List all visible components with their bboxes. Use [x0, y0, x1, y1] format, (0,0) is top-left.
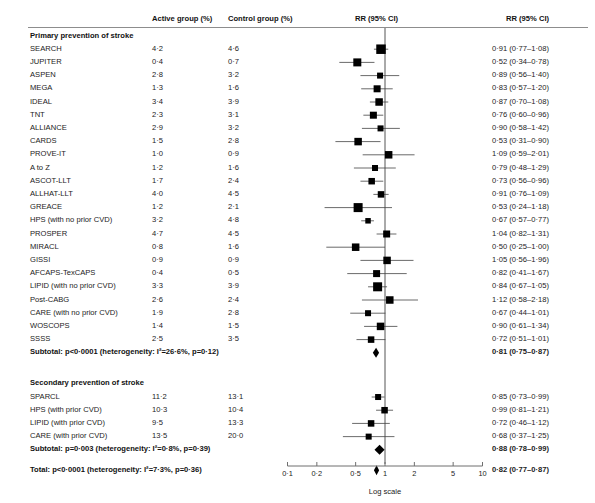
active-pct-row-0-2: 2·8: [152, 70, 197, 79]
rr-value-row-0-10: 0·73 (0·56–0·96): [492, 176, 549, 185]
study-name-row-0-13: HPS (with no prior CVD): [30, 215, 112, 224]
control-pct-row-0-21: 1·5: [228, 321, 273, 330]
active-pct-row-0-21: 1·4: [152, 321, 197, 330]
study-name-row-0-2: ASPEN: [30, 70, 56, 79]
rr-value-row-0-6: 0·90 (0·58–1·42): [492, 123, 549, 132]
study-name-row-0-8: PROVE-IT: [30, 149, 66, 158]
active-pct-row-0-8: 1·0: [152, 149, 197, 158]
control-pct-row-0-8: 0·9: [228, 149, 273, 158]
active-pct-row-1-3: 13·5: [152, 431, 197, 440]
control-pct-row-0-13: 4·8: [228, 215, 273, 224]
group-heading-1: Secondary prevention of stroke: [30, 378, 144, 387]
active-pct-row-0-14: 4·7: [152, 229, 197, 238]
control-pct-row-0-1: 0·7: [228, 57, 273, 66]
x-tick-label-4: 2: [394, 469, 434, 478]
study-name-row-0-3: MEGA: [30, 83, 52, 92]
control-pct-row-0-22: 3·5: [228, 334, 273, 343]
active-pct-row-0-19: 2·6: [152, 295, 197, 304]
active-pct-row-0-4: 3·4: [152, 97, 197, 106]
control-pct-row-0-20: 2·8: [228, 308, 273, 317]
rr-value-row-0-9: 0·79 (0·48–1·29): [492, 163, 549, 172]
control-pct-row-0-0: 4·6: [228, 44, 273, 53]
rr-value-row-0-7: 0·53 (0·31–0·90): [492, 136, 549, 145]
active-pct-row-0-1: 0·4: [152, 57, 197, 66]
study-name-row-0-6: ALLIANCE: [30, 123, 67, 132]
axis-title: Log scale: [320, 487, 450, 496]
control-pct-row-0-17: 0·5: [228, 268, 273, 277]
active-pct-row-0-20: 1·9: [152, 308, 197, 317]
active-pct-row-0-16: 0·9: [152, 255, 197, 264]
subtotal-label-0: Subtotal: p<0·0001 (heterogeneity: I²=26…: [30, 347, 219, 356]
study-name-row-0-15: MIRACL: [30, 242, 59, 251]
forest-plot-table: Primary prevention of strokeSEARCH4·24·6…: [0, 0, 595, 503]
rr-value-row-0-13: 0·67 (0·57–0·77): [492, 215, 549, 224]
study-name-row-0-17: AFCAPS-TexCAPS: [30, 268, 95, 277]
study-name-row-1-1: HPS (with prior CVD): [30, 405, 102, 414]
control-pct-row-0-6: 3·2: [228, 123, 273, 132]
control-pct-row-1-1: 10·4: [228, 405, 273, 414]
study-name-row-1-3: CARE (with prior CVD): [30, 431, 107, 440]
active-pct-row-0-11: 4·0: [152, 189, 197, 198]
group-heading-0: Primary prevention of stroke: [30, 31, 133, 40]
study-name-row-0-7: CARDS: [30, 136, 57, 145]
study-name-row-0-12: GREACE: [30, 202, 62, 211]
control-pct-row-0-14: 4·5: [228, 229, 273, 238]
rr-value-row-0-14: 1·04 (0·82–1·31): [492, 229, 549, 238]
active-pct-row-0-15: 0·8: [152, 242, 197, 251]
total-label: Total: p<0·0001 (heterogeneity: I²=7·3%,…: [30, 465, 202, 474]
active-pct-row-0-12: 1·2: [152, 202, 197, 211]
study-name-row-0-0: SEARCH: [30, 44, 62, 53]
study-name-row-0-22: SSSS: [30, 334, 50, 343]
control-pct-row-0-12: 2·1: [228, 202, 273, 211]
study-name-row-0-16: GISSI: [30, 255, 50, 264]
study-name-row-0-5: TNT: [30, 110, 45, 119]
study-name-row-0-9: A to Z: [30, 163, 50, 172]
active-pct-row-0-7: 1·5: [152, 136, 197, 145]
study-name-row-0-11: ALLHAT-LLT: [30, 189, 73, 198]
control-pct-row-0-7: 2·8: [228, 136, 273, 145]
control-pct-row-0-18: 3·9: [228, 281, 273, 290]
control-pct-row-1-0: 13·1: [228, 392, 273, 401]
control-pct-row-0-2: 3·2: [228, 70, 273, 79]
control-pct-row-0-10: 2·4: [228, 176, 273, 185]
active-pct-row-0-6: 2·9: [152, 123, 197, 132]
control-pct-row-0-15: 1·6: [228, 242, 273, 251]
control-pct-row-1-2: 13·3: [228, 418, 273, 427]
active-pct-row-0-3: 1·3: [152, 83, 197, 92]
rr-value-row-0-20: 0·67 (0·44–1·01): [492, 308, 549, 317]
control-pct-row-0-16: 0·9: [228, 255, 273, 264]
study-name-row-1-0: SPARCL: [30, 392, 60, 401]
rr-value-row-0-17: 0·82 (0·41–1·67): [492, 268, 549, 277]
study-name-row-0-4: IDEAL: [30, 97, 52, 106]
active-pct-row-0-18: 3·3: [152, 281, 197, 290]
control-pct-row-0-11: 4·5: [228, 189, 273, 198]
rr-value-row-0-4: 0·87 (0·70–1·08): [492, 97, 549, 106]
control-pct-row-0-9: 1·6: [228, 163, 273, 172]
rr-value-row-1-1: 0·99 (0·81–1·21): [492, 405, 549, 414]
active-pct-row-1-2: 9·5: [152, 418, 197, 427]
control-pct-row-0-3: 1·6: [228, 83, 273, 92]
study-name-row-0-10: ASCOT-LLT: [30, 176, 71, 185]
rr-value-row-0-21: 0·90 (0·61–1·34): [492, 321, 549, 330]
study-name-row-0-1: JUPITER: [30, 57, 62, 66]
rr-value-row-1-2: 0·72 (0·46–1·12): [492, 418, 549, 427]
subtotal-rr-1: 0·88 (0·78–0·99): [492, 444, 549, 453]
active-pct-row-0-0: 4·2: [152, 44, 197, 53]
rr-value-row-0-16: 1·05 (0·56–1·96): [492, 255, 549, 264]
active-pct-row-0-5: 2·3: [152, 110, 197, 119]
active-pct-row-0-13: 3·2: [152, 215, 197, 224]
x-tick-label-1: 0·2: [297, 469, 337, 478]
active-pct-row-0-10: 1·7: [152, 176, 197, 185]
study-name-row-0-14: PROSPER: [30, 229, 67, 238]
control-pct-row-0-4: 3·9: [228, 97, 273, 106]
control-pct-row-0-5: 3·1: [228, 110, 273, 119]
rr-value-row-0-15: 0·50 (0·25–1·00): [492, 242, 549, 251]
study-name-row-0-20: CARE (with no prior CVD): [30, 308, 118, 317]
active-pct-row-0-22: 2·5: [152, 334, 197, 343]
rr-value-row-0-3: 0·83 (0·57–1·20): [492, 83, 549, 92]
active-pct-row-0-9: 1·2: [152, 163, 197, 172]
rr-value-row-0-2: 0·89 (0·56–1·40): [492, 70, 549, 79]
rr-value-row-0-8: 1·09 (0·59–2·01): [492, 149, 549, 158]
study-name-row-0-18: LIPID (with no prior CVD): [30, 281, 116, 290]
active-pct-row-0-17: 0·4: [152, 268, 197, 277]
